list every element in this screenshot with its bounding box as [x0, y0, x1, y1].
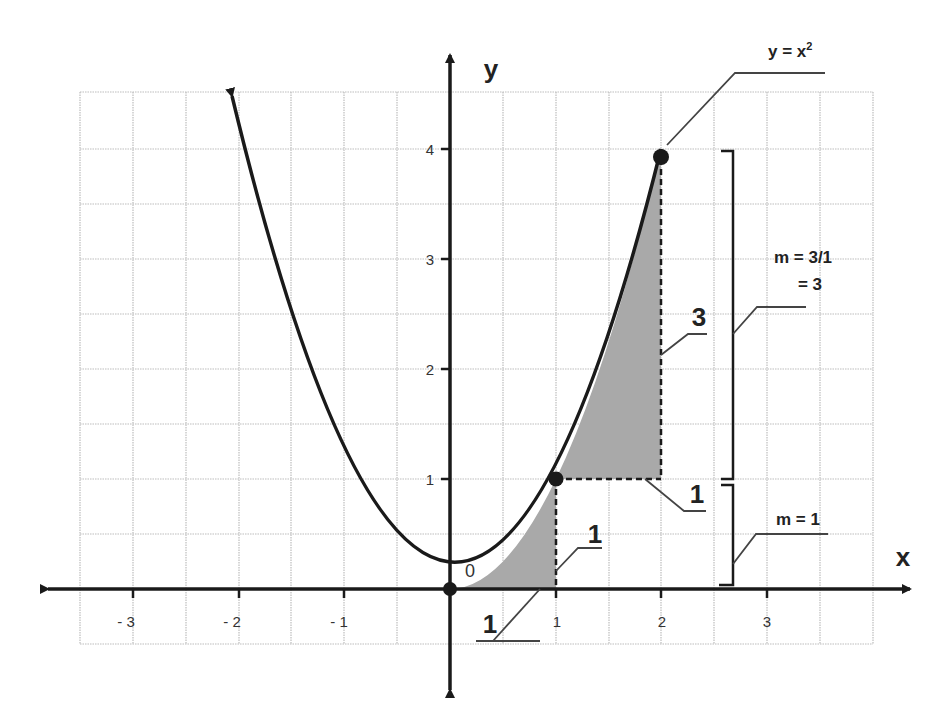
rise-label-0-1: 1	[588, 519, 602, 549]
slope-label-1: m = 1	[776, 510, 820, 529]
grid	[80, 92, 873, 644]
bracket-rise-3	[721, 151, 733, 479]
x-tick-label: - 2	[223, 613, 241, 630]
x-tick-label: - 1	[330, 613, 348, 630]
point-origin	[443, 582, 457, 596]
rise-label-1-2: 3	[692, 302, 706, 332]
bracket-rise-1	[719, 485, 733, 585]
x-axis-label: x	[896, 542, 911, 572]
parabola-curve	[232, 96, 661, 562]
parabola-chart: - 3 - 2 - 1 1 2 3 4 3 2 1 0 y x y = x2 1…	[0, 0, 944, 717]
y-tick-label: 1	[426, 471, 434, 488]
x-tick-label: - 3	[117, 613, 135, 630]
x-tick-label: 2	[658, 613, 666, 630]
slope-label-3-line1: m = 3/1	[774, 248, 832, 267]
y-tick-label: 3	[426, 251, 434, 268]
curve-label: y = x2	[768, 40, 812, 61]
origin-label: 0	[465, 561, 475, 581]
x-tick-label: 3	[763, 613, 771, 630]
y-axis-label: y	[484, 54, 499, 84]
y-tick-label: 2	[426, 361, 434, 378]
point-2-4	[653, 149, 669, 165]
y-tick-label: 4	[426, 141, 434, 158]
run-label-0-1: 1	[483, 609, 497, 639]
run-label-1-2: 1	[690, 479, 704, 509]
slope-label-3-line2: = 3	[798, 275, 822, 294]
point-1-1	[549, 472, 564, 487]
x-tick-label: 1	[553, 613, 561, 630]
